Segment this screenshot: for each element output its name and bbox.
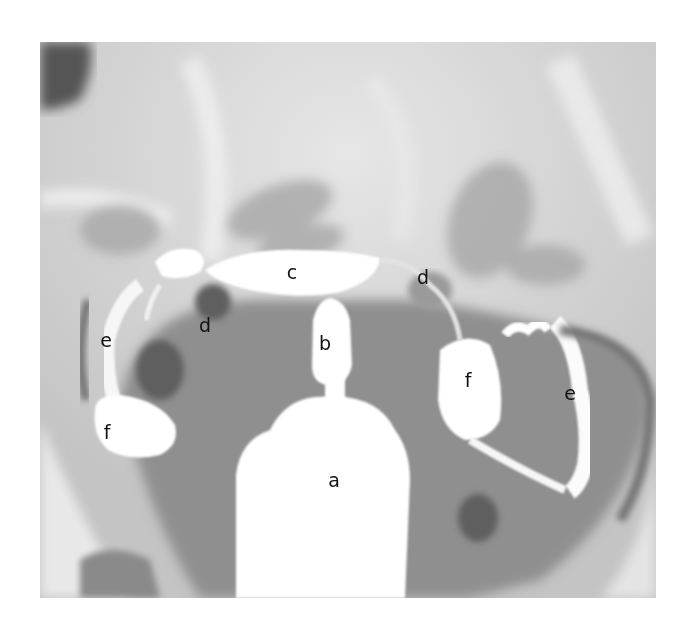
label-b-uterine-body: b bbox=[319, 334, 331, 353]
xray-drawing bbox=[40, 42, 656, 598]
label-f-left: f bbox=[104, 423, 111, 442]
label-a-cervical-balloon: a bbox=[328, 471, 340, 490]
label-d-left: d bbox=[199, 316, 211, 335]
label-d-right: d bbox=[417, 268, 429, 287]
xray-image bbox=[40, 42, 656, 598]
label-c-uterine-fundus: c bbox=[287, 263, 297, 282]
label-f-right: f bbox=[465, 371, 472, 390]
label-e-right: e bbox=[564, 384, 576, 403]
label-e-left: e bbox=[100, 331, 112, 350]
